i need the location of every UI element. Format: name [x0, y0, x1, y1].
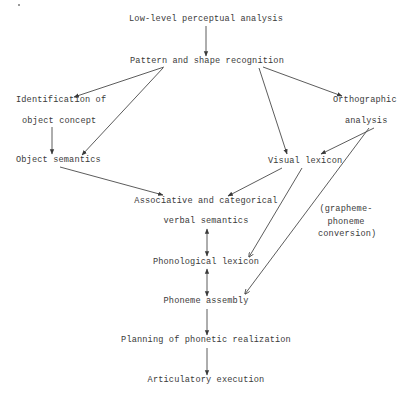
node-identification-line1: Identification of	[16, 95, 106, 105]
node-pattern-recognition: Pattern and shape recognition	[130, 56, 284, 66]
node-orthographic-line1: Orthographic	[333, 95, 397, 105]
node-perceptual-analysis: Low-level perceptual analysis	[129, 14, 283, 24]
arrow-visual-lexicon-to-associative	[228, 168, 282, 196]
node-planning-phonetic: Planning of phonetic realization	[121, 335, 291, 345]
node-orthographic-line2: analysis	[345, 116, 387, 126]
node-visual-lexicon: Visual lexicon	[268, 156, 342, 166]
gpc-line3: conversion)	[318, 228, 374, 241]
arrow-pattern-to-visual-lexicon	[259, 68, 287, 154]
node-phoneme-assembly: Phoneme assembly	[164, 296, 249, 306]
node-associative-line2: verbal semantics	[164, 216, 249, 226]
gpc-line2: phoneme	[318, 216, 374, 229]
gpc-annotation: (grapheme- phoneme conversion)	[318, 203, 374, 241]
node-articulatory-execution: Articulatory execution	[148, 375, 265, 385]
node-associative-line1: Associative and categorical	[134, 196, 277, 206]
arrow-object-semantics-to-associative	[60, 167, 163, 195]
cognitive-model-diagram: Low-level perceptual analysis Pattern an…	[0, 0, 410, 399]
node-phonological-lexicon: Phonological lexicon	[153, 257, 259, 267]
scan-speck	[18, 4, 20, 6]
gpc-line1: (grapheme-	[318, 203, 374, 216]
node-identification-line2: object concept	[22, 116, 96, 126]
node-object-semantics: Object semantics	[16, 155, 101, 165]
arrow-pattern-to-orthographic	[263, 67, 342, 96]
